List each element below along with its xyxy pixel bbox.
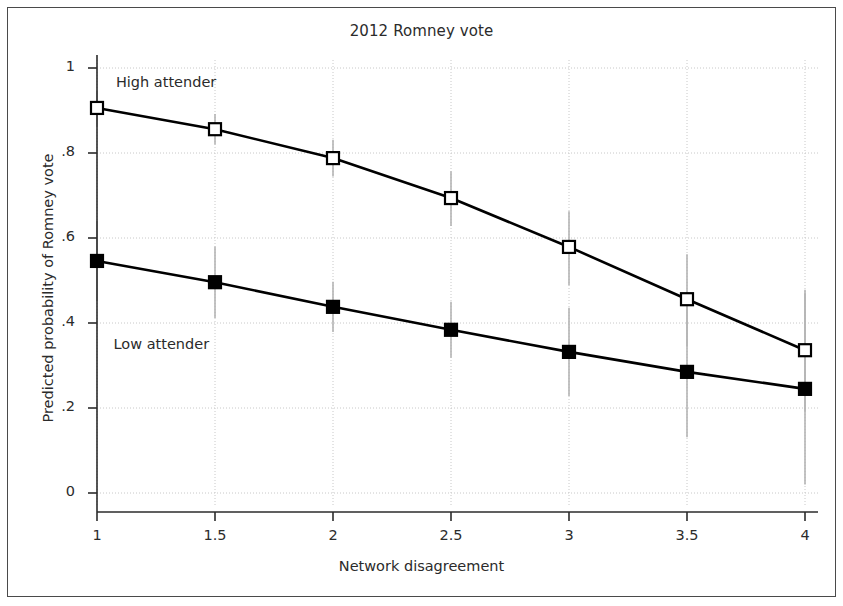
x-tick-label: 4 (780, 527, 830, 543)
chart-plot-area (0, 0, 843, 606)
x-tick-label: 2.5 (426, 527, 476, 543)
x-axis-title: Network disagreement (0, 558, 843, 574)
x-tick-label: 2 (308, 527, 358, 543)
x-tick-label: 3 (544, 527, 594, 543)
y-tick-label: 1 (39, 58, 75, 74)
series-annotation: High attender (116, 74, 216, 90)
x-tick-label: 1 (72, 527, 122, 543)
y-tick-label: 0 (39, 483, 75, 499)
series-annotation: Low attender (114, 336, 210, 352)
x-tick-label: 1.5 (190, 527, 240, 543)
confidence-interval-bars (97, 91, 805, 485)
y-axis-title: Predicted probability of Romney vote (40, 118, 56, 458)
x-tick-label: 3.5 (662, 527, 712, 543)
figure-container: 2012 Romney vote 0.2.4.6.81 11.522.533.5… (0, 0, 843, 606)
